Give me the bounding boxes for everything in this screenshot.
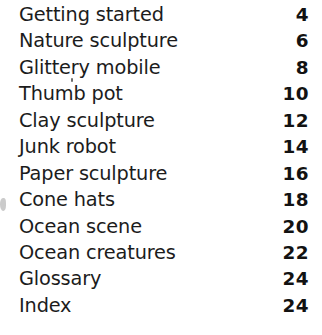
toc-entry-title: Junk robot — [19, 134, 116, 160]
toc-entry[interactable]: Thumb pot10 — [19, 81, 309, 107]
toc-entry-page-number: 6 — [283, 28, 309, 54]
toc-entry[interactable]: Clay sculpture12 — [19, 108, 309, 134]
toc-entry-page-number: 24 — [283, 266, 309, 292]
toc-entry-title: Glittery mobile — [19, 55, 160, 81]
toc-entry-title: Nature sculpture — [19, 28, 178, 54]
toc-entry-page-number: 10 — [283, 81, 309, 107]
toc-entry[interactable]: Ocean creatures22 — [19, 240, 309, 266]
toc-entry-page-number: 24 — [283, 293, 309, 319]
toc-entry-title: Thumb pot — [19, 81, 123, 107]
toc-entry-page-number: 4 — [283, 2, 309, 28]
toc-entry-title: Paper sculpture — [19, 161, 167, 187]
toc-entry-title: Getting started — [19, 2, 164, 28]
toc-entry[interactable]: Glittery mobile8 — [19, 55, 309, 81]
table-of-contents-list: Getting started4Nature sculpture6Glitter… — [19, 2, 309, 319]
toc-entry[interactable]: Ocean scene20 — [19, 214, 309, 240]
toc-entry-page-number: 20 — [283, 214, 309, 240]
toc-entry-page-number: 8 — [283, 55, 309, 81]
toc-entry[interactable]: Junk robot14 — [19, 134, 309, 160]
toc-entry-page-number: 12 — [283, 108, 309, 134]
toc-entry-title: Ocean creatures — [19, 240, 176, 266]
toc-entry-title: Cone hats — [19, 187, 115, 213]
page-edge-artifact — [0, 198, 6, 211]
toc-entry-title: Clay sculpture — [19, 108, 155, 134]
toc-entry[interactable]: Cone hats18 — [19, 187, 309, 213]
toc-entry[interactable]: Paper sculpture16 — [19, 161, 309, 187]
toc-entry[interactable]: Nature sculpture6 — [19, 28, 309, 54]
table-of-contents-page: Getting started4Nature sculpture6Glitter… — [0, 0, 322, 335]
toc-entry-page-number: 16 — [283, 161, 309, 187]
toc-entry-page-number: 14 — [283, 134, 309, 160]
toc-entry[interactable]: Glossary24 — [19, 266, 309, 292]
toc-entry-title: Index — [19, 293, 71, 319]
toc-entry-title: Glossary — [19, 266, 101, 292]
toc-entry-page-number: 18 — [283, 187, 309, 213]
toc-entry[interactable]: Index24 — [19, 293, 309, 319]
toc-entry-page-number: 22 — [283, 240, 309, 266]
toc-entry-title: Ocean scene — [19, 214, 142, 240]
toc-entry[interactable]: Getting started4 — [19, 2, 309, 28]
